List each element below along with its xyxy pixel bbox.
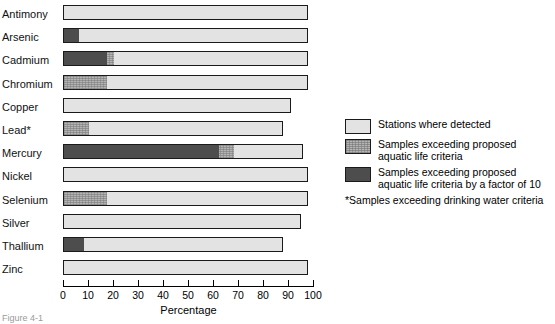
chart-legend: Stations where detected Samples exceedin…	[345, 118, 553, 206]
category-label-arsenic: Arsenic	[0, 31, 54, 43]
bar-chromium	[63, 75, 308, 90]
x-tick-label: 0	[60, 290, 66, 301]
category-label-lead: Lead*	[0, 124, 54, 136]
category-label-chromium: Chromium	[0, 78, 54, 90]
plot-area	[63, 4, 313, 283]
x-tick-label: 10	[82, 290, 94, 301]
legend-label: Samples exceeding proposed aquatic life …	[378, 166, 541, 190]
x-tick-label: 60	[207, 290, 219, 301]
x-tick	[188, 280, 189, 287]
x-tick	[163, 280, 164, 287]
category-label-nickel: Nickel	[0, 170, 54, 182]
x-tick-label: 100	[304, 290, 322, 301]
bar-copper	[63, 98, 291, 113]
x-tick	[138, 280, 139, 287]
x-tick	[313, 280, 314, 287]
legend-label: Stations where detected	[378, 118, 491, 131]
bar-segment-aquatic-x10	[64, 238, 84, 251]
legend-swatch-aquatic-icon	[345, 139, 371, 154]
bar-zinc	[63, 260, 308, 275]
legend-footnote: *Samples exceeding drinking water criter…	[345, 194, 553, 206]
bar-segment-aquatic-x10	[64, 145, 219, 158]
legend-item: Samples exceeding proposed aquatic life …	[345, 138, 553, 162]
bar-mercury	[63, 144, 303, 159]
legend-label: Samples exceeding proposed aquatic life …	[378, 138, 516, 162]
bar-segment-aquatic	[64, 122, 89, 135]
x-tick	[288, 280, 289, 287]
category-label-mercury: Mercury	[0, 147, 54, 159]
bar-thallium	[63, 237, 283, 252]
legend-swatch-detected-icon	[345, 119, 371, 134]
x-tick-label: 30	[132, 290, 144, 301]
category-label-selenium: Selenium	[0, 194, 54, 206]
category-label-copper: Copper	[0, 101, 54, 113]
bar-nickel	[63, 167, 308, 182]
bar-arsenic	[63, 28, 308, 43]
bar-lead	[63, 121, 283, 136]
legend-item: Samples exceeding proposed aquatic life …	[345, 166, 553, 190]
figure-caption: Figure 4-1	[2, 313, 43, 323]
bar-segment-aquatic	[64, 192, 107, 205]
x-tick-label: 80	[257, 290, 269, 301]
category-label-cadmium: Cadmium	[0, 54, 54, 66]
category-label-silver: Silver	[0, 217, 54, 229]
x-tick-label: 20	[107, 290, 119, 301]
bar-silver	[63, 214, 301, 229]
x-tick	[213, 280, 214, 287]
bar-chart: AntimonyArsenicCadmiumChromiumCopperLead…	[0, 0, 555, 324]
legend-swatch-aquatic-x10-icon	[345, 167, 371, 182]
bar-selenium	[63, 191, 308, 206]
x-axis-title: Percentage	[63, 304, 314, 316]
category-label-antimony: Antimony	[0, 8, 54, 20]
bar-segment-aquatic-x10	[64, 52, 107, 65]
x-tick	[113, 280, 114, 287]
x-tick-label: 50	[182, 290, 194, 301]
bar-segment-aquatic	[64, 76, 107, 89]
bar-antimony	[63, 5, 308, 20]
category-label-zinc: Zinc	[0, 263, 54, 275]
category-label-thallium: Thallium	[0, 240, 54, 252]
legend-item: Stations where detected	[345, 118, 553, 134]
x-tick	[263, 280, 264, 287]
bar-cadmium	[63, 51, 308, 66]
x-tick	[238, 280, 239, 287]
x-tick	[63, 280, 64, 287]
bar-segment-aquatic-x10	[64, 29, 79, 42]
x-tick-label: 40	[157, 290, 169, 301]
x-tick-label: 90	[282, 290, 294, 301]
x-tick	[88, 280, 89, 287]
x-tick-label: 70	[232, 290, 244, 301]
